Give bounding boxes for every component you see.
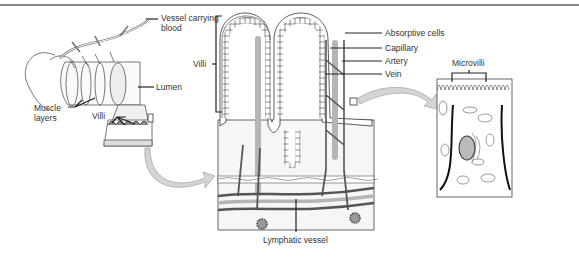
label-vein: Vein [385, 69, 402, 79]
villus-section [218, 13, 378, 230]
zoom-arrow-1 [145, 148, 215, 188]
label-muscle-layers: Muscle layers [34, 103, 61, 123]
intestine-diagram [0, 0, 579, 257]
intestine-illustration [25, 20, 153, 146]
label-villi-left: Villi [92, 111, 105, 121]
label-lymphatic-vessel: Lymphatic vessel [263, 235, 328, 245]
label-artery: Artery [385, 56, 408, 66]
label-vessel-carrying-blood: Vessel carrying blood [161, 13, 219, 33]
label-capillary: Capillary [385, 43, 418, 53]
label-villi-center: Villi [193, 59, 206, 69]
label-lumen: Lumen [156, 82, 182, 92]
absorptive-cell [437, 79, 512, 197]
label-absorptive-cells: Absorptive cells [385, 28, 445, 38]
zoom-arrow-2 [358, 87, 440, 110]
label-microvilli: Microvilli [452, 58, 485, 68]
